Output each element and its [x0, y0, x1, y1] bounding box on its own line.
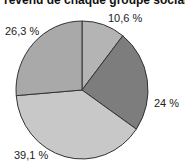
label-slice-3: 39,1 %: [14, 149, 48, 161]
label-slice-2: 24 %: [154, 97, 179, 109]
label-slice-1: 10,6 %: [108, 12, 142, 24]
label-slice-4: 26,3 %: [5, 25, 39, 37]
